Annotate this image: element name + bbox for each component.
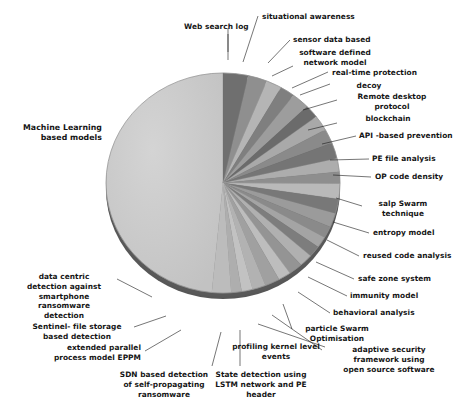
slice-label-extended-parallel-process-model: extended parallel process model EPPM (43, 343, 141, 363)
label-line: safe zone system (358, 274, 431, 284)
leader-line (327, 240, 359, 256)
label-line: detection against (16, 282, 112, 292)
leader-line (303, 100, 337, 110)
label-line: blockchain (340, 114, 436, 124)
label-line: Remote desktop (340, 92, 444, 102)
label-line: framework using (324, 355, 454, 365)
label-line: header (203, 390, 319, 400)
leader-line (283, 304, 292, 329)
label-line: salp Swarm (366, 199, 440, 209)
slice-label-sentinel-file-storage: Sentinel- file storage based detection (25, 322, 129, 342)
slice-label-safe-zone-system: safe zone system (358, 274, 431, 284)
label-line: State detection using (203, 370, 319, 380)
label-line: based models (6, 133, 102, 143)
label-line: sensor data based (293, 35, 371, 45)
label-line: software defined (276, 48, 394, 58)
slice-label-entropy-model: entropy model (373, 228, 434, 238)
slice-label-particle-swarm-optimisation: particle Swarm Optimisation (295, 324, 379, 344)
slice-label-web-search-log: Web search log (184, 22, 249, 32)
slice-label-salp-swarm-technique: salp Swarm technique (366, 199, 440, 219)
slice-label-adaptive-security-framework: adaptive security framework using open s… (324, 345, 454, 374)
leader-line (145, 330, 181, 351)
label-line: particle Swarm (295, 324, 379, 334)
label-line: SDN based detection (116, 370, 212, 380)
label-line: open source software (324, 365, 454, 375)
label-line: based detection (25, 332, 129, 342)
slice-label-behavioral-analysis: behavioral analysis (333, 308, 415, 318)
label-line: reused code analysis (363, 251, 451, 261)
label-line: behavioral analysis (333, 308, 415, 318)
slice-label-data-centric-detection: data centric detection against smartphon… (16, 272, 112, 321)
label-line: extended parallel (43, 343, 141, 353)
label-line: decoy (333, 81, 405, 91)
label-line: detection (16, 311, 112, 321)
label-line: entropy model (373, 228, 434, 238)
label-line: profiling kernel level (222, 342, 330, 352)
slice-label-blockchain: blockchain (340, 114, 436, 124)
leader-line (134, 316, 166, 327)
label-line: network model (276, 58, 394, 68)
pie-slice-machine-learning-based-models (106, 73, 223, 292)
slice-label-immunity-model: immunity model (350, 291, 418, 301)
label-line: situational awareness (262, 12, 355, 22)
label-line: data centric (16, 272, 112, 282)
slice-label-pe-file-analysis: PE file analysis (372, 154, 436, 164)
slice-label-remote-desktop-protocol: Remote desktop protocol (340, 92, 444, 112)
leader-line (117, 279, 152, 297)
pie-slices-group (106, 73, 340, 293)
label-line: process model EPPM (43, 353, 141, 363)
slice-label-api-based-prevention: API -based prevention (359, 131, 453, 141)
label-line: Machine Learning (6, 123, 102, 133)
leader-line (212, 332, 221, 366)
label-line: LSTM network and PE (203, 380, 319, 390)
slice-label-situational-awareness: situational awareness (262, 12, 355, 22)
label-line: adaptive security (324, 345, 454, 355)
slice-label-sdn-based-detection: SDN based detection of self-propagating … (116, 370, 212, 399)
label-line: API -based prevention (359, 131, 453, 141)
leader-line (308, 277, 347, 296)
label-line: ransomware (116, 390, 212, 400)
label-line: OP code density (375, 172, 443, 182)
slice-label-machine-learning-based-models: Machine Learning based models (6, 123, 102, 144)
label-line: technique (366, 209, 440, 219)
slice-label-sensor-data-based: sensor data based (293, 35, 371, 45)
leader-line (336, 198, 362, 206)
slice-label-software-defined-network-model: software defined network model (276, 48, 394, 68)
label-line: Web search log (184, 22, 249, 32)
label-line: immunity model (350, 291, 418, 301)
leader-line (292, 72, 328, 88)
leader-line (298, 292, 330, 313)
label-line: protocol (340, 102, 444, 112)
slice-label-real-time-protection: real-time protection (332, 68, 417, 78)
leader-line (316, 262, 354, 279)
slice-label-profiling-kernel-level-events: profiling kernel level events (222, 342, 330, 362)
label-line: PE file analysis (372, 154, 436, 164)
slice-label-reused-code-analysis: reused code analysis (363, 251, 451, 261)
label-line: Sentinel- file storage (25, 322, 129, 332)
label-line: ransomware (16, 301, 112, 311)
label-line: real-time protection (332, 68, 417, 78)
label-line: of self-propagating (116, 380, 212, 390)
label-line: smartphone (16, 292, 112, 302)
slice-label-state-detection-lstm: State detection using LSTM network and P… (203, 370, 319, 399)
slice-label-decoy: decoy (333, 81, 405, 91)
leader-line (333, 222, 369, 233)
slice-label-op-code-density: OP code density (375, 172, 443, 182)
pie-chart-figure: Machine Learning based models Web search… (0, 0, 459, 417)
leader-line (300, 84, 330, 95)
label-line: events (222, 352, 330, 362)
